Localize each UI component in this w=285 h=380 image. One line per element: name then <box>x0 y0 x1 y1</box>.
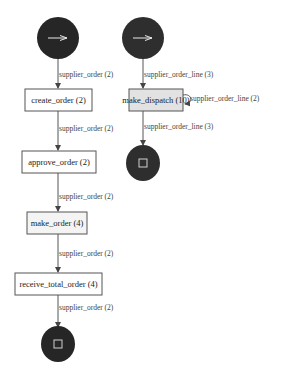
edge-label: supplier_order (2) <box>59 192 114 201</box>
node-label: receive_total_order (4) <box>19 279 97 289</box>
end-node-right[interactable] <box>126 145 160 181</box>
edge-make-dispatch-to-end: supplier_order_line (3) <box>143 111 214 145</box>
edge-label: supplier_order (2) <box>59 124 114 133</box>
edge-label: supplier_order (2) <box>59 249 114 258</box>
start-node-right[interactable] <box>122 17 164 59</box>
node-receive-total-order[interactable]: receive_total_order (4) <box>15 273 102 295</box>
start-node-left[interactable] <box>37 17 79 59</box>
node-label: make_order (4) <box>31 218 84 228</box>
node-label: create_order (2) <box>31 95 86 105</box>
node-create-order[interactable]: create_order (2) <box>25 89 92 111</box>
edge-make-dispatch-self-loop: supplier_order_line (2) <box>183 94 260 104</box>
edge-label: supplier_order_line (2) <box>190 94 260 103</box>
edge-create-to-approve: supplier_order (2) <box>58 111 114 150</box>
node-make-dispatch[interactable]: make_dispatch (10) <box>122 89 189 111</box>
edge-start-to-create-order: supplier_order (2) <box>58 59 114 88</box>
node-approve-order[interactable]: approve_order (2) <box>22 151 96 173</box>
edge-start-to-make-dispatch: supplier_order_line (3) <box>143 59 214 88</box>
edge-receive-to-end: supplier_order (2) <box>58 295 114 327</box>
node-label: approve_order (2) <box>28 157 90 167</box>
process-diagram: supplier_order (2) create_order (2) supp… <box>0 0 285 380</box>
node-make-order[interactable]: make_order (4) <box>27 212 87 234</box>
edge-approve-to-make-order: supplier_order (2) <box>58 173 114 211</box>
edge-label: supplier_order (2) <box>59 70 114 79</box>
edge-label: supplier_order_line (3) <box>144 70 214 79</box>
edge-label: supplier_order_line (3) <box>144 122 214 131</box>
edge-label: supplier_order (2) <box>59 303 114 312</box>
edge-make-order-to-receive: supplier_order (2) <box>58 234 114 272</box>
end-node-left[interactable] <box>41 326 75 362</box>
node-label: make_dispatch (10) <box>122 95 189 105</box>
